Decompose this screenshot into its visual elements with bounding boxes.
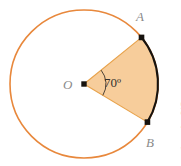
angle-value-label: 70º xyxy=(104,76,121,89)
point-b-dot xyxy=(145,119,151,125)
point-b-label: B xyxy=(146,136,154,149)
center-point-dot xyxy=(81,81,86,86)
point-a-label: A xyxy=(136,10,144,23)
center-label: O xyxy=(63,78,72,91)
point-a-dot xyxy=(139,35,145,41)
geometry-figure: A B O 70º Ilustrações: DAE xyxy=(0,0,181,166)
illustration-credit: Ilustrações: DAE xyxy=(180,102,181,150)
